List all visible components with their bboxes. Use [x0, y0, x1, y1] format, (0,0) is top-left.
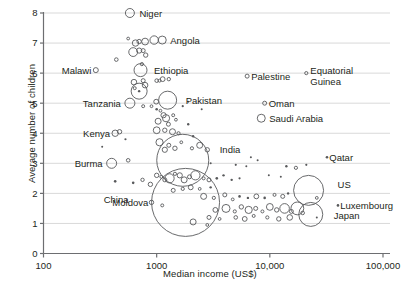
- bubble: [167, 143, 171, 147]
- label-equatorial-guinea: Guinea: [310, 76, 341, 87]
- bubble: [277, 217, 281, 221]
- bubble: [132, 182, 135, 185]
- bubble: [231, 198, 234, 201]
- bubble: [212, 196, 215, 199]
- bubble: [254, 194, 259, 199]
- label-oman: Oman: [269, 98, 295, 109]
- label-ethiopia: Ethiopia: [154, 65, 189, 76]
- bubble: [181, 187, 184, 190]
- xtick-label-100000: 100,000: [366, 260, 400, 271]
- bubble: [316, 216, 318, 218]
- bubble: [133, 87, 136, 90]
- ytick-label-0: 0: [32, 248, 37, 259]
- bubble: [155, 118, 161, 124]
- bubble: [159, 109, 162, 112]
- bubble: [207, 215, 211, 219]
- bubble: [180, 141, 183, 144]
- bubble: [254, 206, 258, 210]
- bubble: [138, 90, 140, 92]
- bubble: [261, 210, 264, 213]
- bubble: [305, 164, 307, 166]
- bubble: [238, 195, 241, 198]
- bubble: [129, 48, 138, 57]
- xtick-label-100: 100: [36, 260, 52, 271]
- bubble: [173, 146, 177, 150]
- bubble: [245, 165, 247, 167]
- bubble: [239, 205, 243, 209]
- scatter-chart: NigerAngolaEthiopiaMalawiTanzaniaPakista…: [0, 0, 406, 286]
- plot-area: NigerAngolaEthiopiaMalawiTanzaniaPakista…: [0, 0, 406, 286]
- bubble: [142, 38, 149, 45]
- bubble: [167, 77, 170, 80]
- bubble: [101, 146, 103, 148]
- bubble: [172, 114, 175, 117]
- bubble: [238, 177, 240, 179]
- bubble: [201, 193, 207, 199]
- bubble: [263, 197, 266, 200]
- label-us: US: [338, 179, 351, 190]
- bubble: [234, 216, 238, 220]
- bubble-luxembourg: [337, 204, 340, 207]
- bubble: [150, 105, 153, 108]
- bubble: [210, 162, 212, 164]
- bubble: [222, 174, 224, 176]
- bubble-qatar: [326, 156, 329, 159]
- bubble: [115, 58, 119, 62]
- bubble-pakistan: [159, 91, 177, 109]
- label-pakistan: Pakistan: [186, 95, 222, 106]
- bubble: [281, 194, 285, 198]
- bubble: [201, 108, 203, 110]
- bubble: [191, 171, 200, 180]
- data-point-labels: NigerAngolaEthiopiaMalawiTanzaniaPakista…: [62, 8, 393, 222]
- bubble: [169, 129, 175, 135]
- bubble: [266, 204, 273, 211]
- bubble: [155, 108, 158, 111]
- gridlines: [44, 13, 391, 223]
- label-japan: Japan: [334, 210, 360, 221]
- bubble: [218, 218, 221, 221]
- bubble: [235, 164, 237, 166]
- bubble: [257, 159, 259, 161]
- bubble: [163, 128, 167, 132]
- bubble: [287, 215, 293, 221]
- ytick-label-8: 8: [32, 7, 37, 18]
- bubble: [252, 214, 255, 217]
- label-luxembourg: Luxembourg: [340, 200, 393, 211]
- bubble-malawi: [93, 68, 98, 73]
- bubble: [206, 224, 209, 227]
- bubble-saudi-arabia: [257, 114, 265, 122]
- bubble: [127, 37, 130, 40]
- bubble: [268, 174, 270, 176]
- bubble: [266, 216, 269, 219]
- bubble: [245, 206, 252, 213]
- bubble: [287, 192, 289, 194]
- label-qatar: Qatar: [329, 152, 353, 163]
- bubble: [207, 178, 211, 182]
- bubble: [209, 186, 211, 188]
- bubble: [250, 156, 252, 158]
- label-niger: Niger: [139, 8, 162, 19]
- bubble: [275, 208, 279, 212]
- bubble: [233, 210, 236, 213]
- label-moldova: Moldova: [112, 197, 149, 208]
- bubble: [315, 196, 318, 199]
- bubble: [177, 173, 182, 178]
- bubble: [162, 147, 167, 152]
- bubble: [187, 123, 189, 125]
- bubble: [143, 53, 147, 57]
- bubble: [148, 182, 152, 186]
- bubble: [142, 105, 145, 108]
- y-axis-title: Average number of children: [26, 39, 37, 209]
- bubble: [280, 204, 290, 214]
- label-burma: Burma: [75, 158, 104, 169]
- bubble: [173, 172, 176, 175]
- label-malawi: Malawi: [62, 65, 92, 76]
- bubble: [280, 176, 282, 178]
- bubble: [171, 188, 175, 192]
- bubble: [114, 180, 117, 183]
- bubble: [190, 219, 196, 225]
- bubble-us: [294, 175, 324, 205]
- bubble-palestine: [245, 74, 249, 78]
- bubble: [126, 159, 130, 163]
- bubble: [141, 178, 144, 181]
